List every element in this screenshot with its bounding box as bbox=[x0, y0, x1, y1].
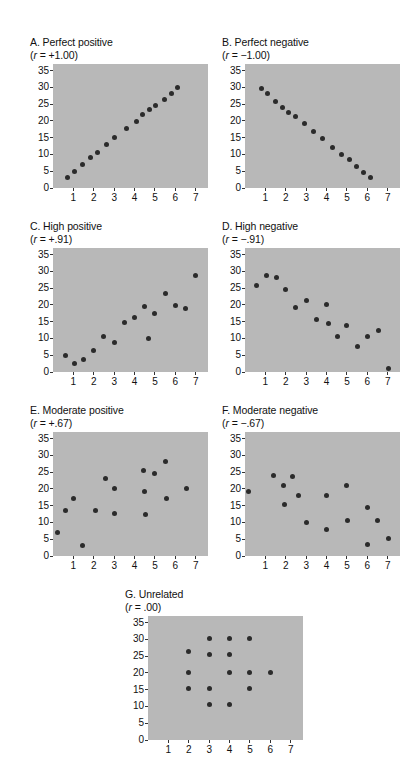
y-axis-tick-label: 30 bbox=[221, 450, 241, 460]
y-axis-tick-mark bbox=[242, 137, 245, 138]
x-axis-tick-mark bbox=[367, 188, 368, 191]
y-axis-tick-label: 10 bbox=[124, 701, 144, 711]
x-axis-tick-label: 2 bbox=[86, 377, 102, 387]
y-axis-tick-label: 15 bbox=[29, 317, 49, 327]
x-axis-tick-label: 7 bbox=[380, 193, 396, 203]
x-axis-tick-mark bbox=[306, 188, 307, 191]
x-axis-tick-mark bbox=[175, 188, 176, 191]
y-axis-tick-label: 25 bbox=[29, 283, 49, 293]
y-axis-tick-label: 15 bbox=[124, 685, 144, 695]
y-axis-tick-label: 30 bbox=[221, 82, 241, 92]
x-axis-tick-mark bbox=[154, 372, 155, 375]
data-point bbox=[71, 496, 76, 501]
data-point bbox=[163, 291, 168, 296]
x-axis-tick-label: 4 bbox=[127, 377, 143, 387]
x-axis-tick-label: 4 bbox=[319, 377, 335, 387]
x-axis-tick-label: 7 bbox=[188, 561, 204, 571]
x-axis-tick-label: 4 bbox=[127, 561, 143, 571]
x-axis-tick-mark bbox=[326, 372, 327, 375]
x-axis-tick-mark bbox=[195, 556, 196, 559]
x-axis-tick-mark bbox=[209, 740, 210, 743]
data-point bbox=[163, 459, 168, 464]
y-axis-tick-mark bbox=[50, 522, 53, 523]
y-axis-tick-label: 30 bbox=[124, 634, 144, 644]
x-axis-tick-label: 5 bbox=[339, 377, 355, 387]
x-axis-tick-label: 6 bbox=[359, 561, 375, 571]
y-axis-tick-mark bbox=[242, 188, 245, 189]
y-axis-tick-mark bbox=[145, 672, 148, 673]
x-axis-tick-mark bbox=[73, 372, 74, 375]
y-axis-tick-label: 35 bbox=[29, 66, 49, 76]
data-point bbox=[112, 486, 117, 491]
x-axis-tick-mark bbox=[265, 188, 266, 191]
x-axis-tick-mark bbox=[168, 740, 169, 743]
y-axis-tick-label: 5 bbox=[221, 166, 241, 176]
x-axis-tick-mark bbox=[134, 556, 135, 559]
x-axis-tick-label: 2 bbox=[181, 745, 197, 755]
x-axis-tick-label: 1 bbox=[65, 561, 81, 571]
x-axis-tick-mark bbox=[175, 556, 176, 559]
x-axis-tick-mark bbox=[195, 372, 196, 375]
data-point bbox=[184, 486, 189, 491]
y-axis-tick-label: 25 bbox=[29, 467, 49, 477]
x-axis-tick-mark bbox=[73, 188, 74, 191]
data-point bbox=[91, 348, 96, 353]
data-point bbox=[193, 273, 198, 278]
data-point bbox=[314, 317, 319, 322]
x-axis-tick-label: 6 bbox=[359, 193, 375, 203]
plot-region: 051015202530351234567 bbox=[222, 220, 408, 390]
x-axis-tick-mark bbox=[73, 556, 74, 559]
data-point bbox=[296, 493, 301, 498]
y-axis-tick-mark bbox=[145, 639, 148, 640]
x-axis-tick-label: 2 bbox=[278, 561, 294, 571]
x-axis-tick-label: 2 bbox=[278, 377, 294, 387]
y-axis-tick-label: 15 bbox=[221, 133, 241, 143]
y-axis-tick-label: 25 bbox=[221, 283, 241, 293]
x-axis-tick-mark bbox=[290, 740, 291, 743]
plot-region: 051015202530351234567 bbox=[125, 588, 311, 758]
y-axis-tick-label: 0 bbox=[221, 551, 241, 561]
x-axis-tick-mark bbox=[154, 556, 155, 559]
y-axis-tick-label: 0 bbox=[29, 183, 49, 193]
y-axis-tick-mark bbox=[242, 505, 245, 506]
data-point bbox=[302, 121, 307, 126]
y-axis-tick-mark bbox=[50, 87, 53, 88]
y-axis-tick-mark bbox=[242, 522, 245, 523]
x-axis-tick-mark bbox=[326, 188, 327, 191]
y-axis-tick-label: 25 bbox=[29, 99, 49, 109]
x-axis-tick-label: 6 bbox=[167, 193, 183, 203]
x-axis-tick-mark bbox=[285, 556, 286, 559]
y-axis-tick-mark bbox=[145, 656, 148, 657]
y-axis-tick-label: 35 bbox=[221, 66, 241, 76]
y-axis-tick-label: 25 bbox=[221, 99, 241, 109]
data-point bbox=[355, 344, 360, 349]
y-axis-tick-mark bbox=[50, 288, 53, 289]
y-axis-tick-mark bbox=[145, 689, 148, 690]
y-axis-tick-label: 20 bbox=[221, 300, 241, 310]
data-point bbox=[347, 157, 352, 162]
y-axis-tick-mark bbox=[242, 355, 245, 356]
data-point bbox=[365, 542, 370, 547]
x-axis-tick-mark bbox=[306, 556, 307, 559]
data-point bbox=[104, 142, 109, 147]
x-axis-tick-label: 6 bbox=[262, 745, 278, 755]
y-axis-tick-mark bbox=[50, 321, 53, 322]
y-axis-tick-label: 35 bbox=[29, 250, 49, 260]
x-axis-tick-label: 2 bbox=[86, 193, 102, 203]
data-point bbox=[103, 476, 108, 481]
x-axis-tick-label: 1 bbox=[257, 561, 273, 571]
y-axis-tick-label: 0 bbox=[221, 183, 241, 193]
data-point bbox=[112, 511, 117, 516]
y-axis-tick-mark bbox=[145, 740, 148, 741]
y-axis-tick-label: 20 bbox=[29, 300, 49, 310]
x-axis-tick-mark bbox=[387, 188, 388, 191]
panel-f: F. Moderate negative(r = −.67)0510152025… bbox=[222, 404, 318, 430]
x-axis-tick-mark bbox=[346, 556, 347, 559]
data-point bbox=[207, 686, 212, 691]
y-axis-tick-mark bbox=[242, 455, 245, 456]
data-point bbox=[169, 91, 174, 96]
y-axis-tick-mark bbox=[242, 254, 245, 255]
y-axis-tick-mark bbox=[50, 188, 53, 189]
panel-e: E. Moderate positive(r = +.67)0510152025… bbox=[30, 404, 124, 430]
data-point bbox=[207, 652, 212, 657]
